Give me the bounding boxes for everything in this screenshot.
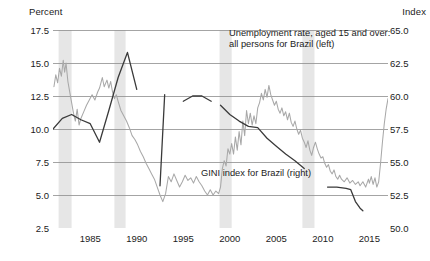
x-tick-1985: 1985	[80, 233, 101, 244]
x-tick-2000: 2000	[219, 233, 240, 244]
recession-band-0	[59, 30, 72, 228]
plot-svg	[53, 30, 388, 228]
x-tick-1995: 1995	[173, 233, 194, 244]
x-tick-1990: 1990	[126, 233, 147, 244]
x-tick-2005: 2005	[266, 233, 287, 244]
annotation-unemployment: Unemployment rate, aged 15 and over: all…	[229, 28, 390, 50]
annotation-unemployment-line1: Unemployment rate, aged 15 and over:	[229, 28, 390, 39]
annotation-unemployment-line2: all persons for Brazil (left)	[229, 39, 390, 50]
x-tick-2010: 2010	[312, 233, 333, 244]
chart-figure: Percent Index 2.55.07.510.012.515.017.5 …	[0, 0, 430, 261]
gini-path-segment-1	[160, 95, 165, 186]
x-tick-2015: 2015	[359, 233, 380, 244]
plot-area: Unemployment rate, aged 15 and over: all…	[53, 30, 388, 228]
series-gini-line	[53, 52, 363, 210]
annotation-gini: GINI index for Brazil (right)	[201, 168, 311, 179]
recession-band-3	[302, 30, 314, 228]
recession-band-1	[114, 30, 125, 228]
gini-path-segment-3	[221, 105, 305, 168]
recession-bands	[59, 30, 315, 228]
recession-band-2	[220, 30, 232, 228]
gini-path-segment-4	[328, 187, 363, 211]
